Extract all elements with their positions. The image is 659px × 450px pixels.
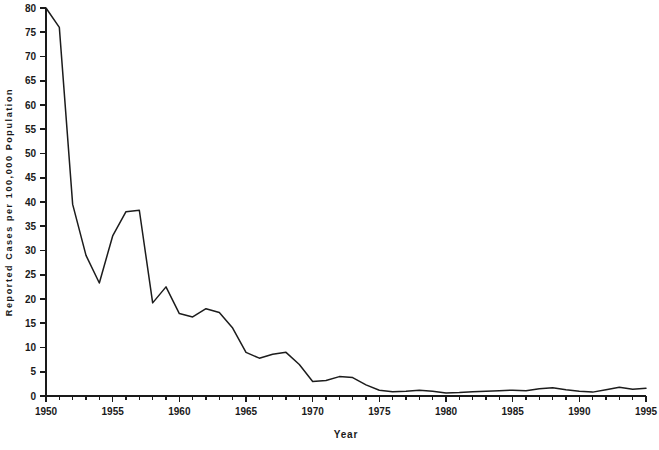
y-tick-label: 10 xyxy=(25,342,37,353)
y-tick-label: 0 xyxy=(30,391,36,402)
y-tick-label: 45 xyxy=(25,172,37,183)
x-tick-label: 1950 xyxy=(35,406,58,417)
x-tick-label: 1960 xyxy=(168,406,191,417)
y-tick-label: 25 xyxy=(25,269,37,280)
x-axis-group: 1950195519601965197019751980198519901995 xyxy=(35,396,658,417)
y-tick-label: 80 xyxy=(25,3,37,14)
y-tick-label: 70 xyxy=(25,51,37,62)
y-tick-label: 5 xyxy=(30,366,36,377)
x-tick-label: 1980 xyxy=(435,406,458,417)
x-axis-tick-labels: 1950195519601965197019751980198519901995 xyxy=(35,406,658,417)
y-axis-ticks xyxy=(40,8,46,396)
y-tick-label: 30 xyxy=(25,245,37,256)
x-axis-title: Year xyxy=(334,429,358,440)
y-tick-label: 65 xyxy=(25,75,37,86)
x-tick-label: 1990 xyxy=(568,406,591,417)
y-tick-label: 20 xyxy=(25,294,37,305)
y-tick-label: 60 xyxy=(25,100,37,111)
x-tick-label: 1995 xyxy=(635,406,658,417)
y-axis-title-container: Reported Cases per 100,000 Population xyxy=(0,0,20,450)
y-axis-tick-labels: 05101520253035404550556065707580 xyxy=(25,3,37,402)
x-tick-label: 1970 xyxy=(302,406,325,417)
chart-container: 05101520253035404550556065707580 1950195… xyxy=(0,0,659,450)
x-tick-label: 1985 xyxy=(502,406,525,417)
y-axis-title: Reported Cases per 100,000 Population xyxy=(4,88,14,316)
y-axis-group: 05101520253035404550556065707580 xyxy=(25,3,46,402)
y-tick-label: 15 xyxy=(25,318,37,329)
y-tick-label: 35 xyxy=(25,221,37,232)
line-chart: 05101520253035404550556065707580 1950195… xyxy=(0,0,659,450)
y-tick-label: 50 xyxy=(25,148,37,159)
x-tick-label: 1965 xyxy=(235,406,258,417)
x-tick-label: 1975 xyxy=(368,406,391,417)
y-tick-label: 75 xyxy=(25,27,37,38)
x-tick-label: 1955 xyxy=(102,406,125,417)
x-axis-ticks xyxy=(46,396,646,402)
y-tick-label: 55 xyxy=(25,124,37,135)
y-tick-label: 40 xyxy=(25,197,37,208)
data-series-line xyxy=(46,8,646,393)
